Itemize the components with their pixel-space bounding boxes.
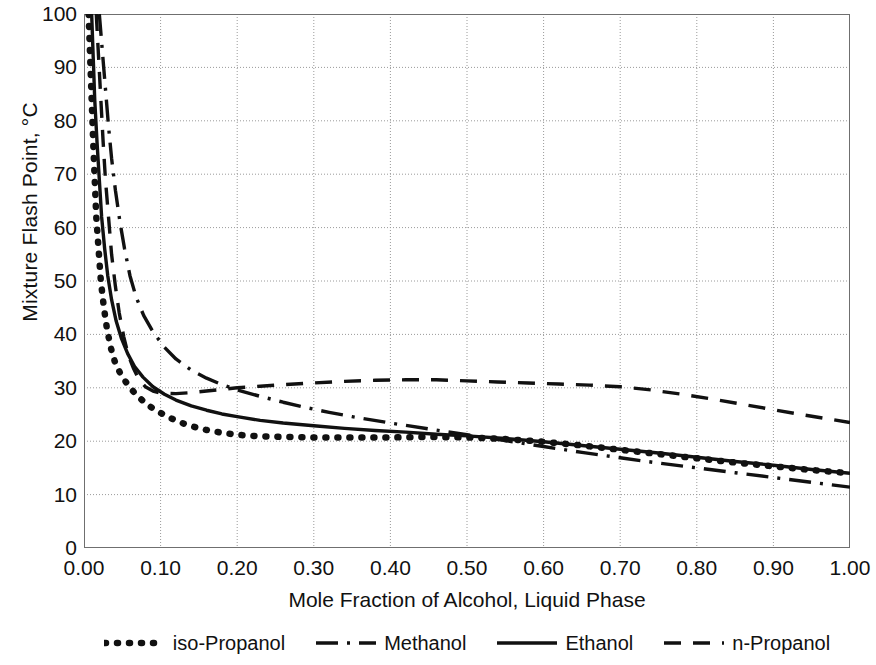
chart-legend: iso-PropanolMethanolEthanoln-Propanol [84,628,850,658]
y-tick-label: 100 [42,2,77,26]
x-tick-label: 0.60 [523,556,564,580]
x-tick-label: 0.50 [447,556,488,580]
legend-key-dotted [104,636,166,650]
y-tick-label: 90 [54,55,77,79]
legend-key-dashdot [315,636,377,650]
y-tick-label: 20 [54,429,77,453]
x-tick-label: 0.00 [64,556,105,580]
legend-key-dashed [663,636,725,650]
y-tick-label: 40 [54,322,77,346]
x-tick-label: 1.00 [830,556,871,580]
y-tick-label: 80 [54,108,77,132]
plot-area: 0102030405060708090100 0.000.100.200.300… [84,14,850,548]
legend-label: iso-Propanol [173,632,285,655]
series-line-methanol [99,14,850,487]
legend-label: Methanol [384,632,466,655]
y-tick-label: 10 [54,482,77,506]
x-tick-label: 0.70 [600,556,641,580]
legend-label: n-Propanol [732,632,830,655]
x-tick-label: 0.10 [140,556,181,580]
x-tick-label: 0.90 [753,556,794,580]
x-tick-label: 0.30 [293,556,334,580]
x-tick-label: 0.40 [370,556,411,580]
legend-item[interactable]: n-Propanol [663,632,830,655]
legend-item[interactable]: iso-Propanol [104,632,285,655]
y-tick-label: 50 [54,269,77,293]
flash-point-chart: Mixture Flash Point, °C 0102030405060708… [0,0,876,665]
y-tick-label: 30 [54,375,77,399]
y-axis-title: Mixture Flash Point, °C [18,42,42,382]
legend-label: Ethanol [565,632,633,655]
x-tick-label: 0.80 [676,556,717,580]
x-axis-title: Mole Fraction of Alcohol, Liquid Phase [84,588,850,612]
y-tick-label: 60 [54,215,77,239]
chart-canvas [84,14,850,548]
grid-lines [84,14,850,548]
legend-key-solid [496,636,558,650]
y-tick-label: 70 [54,162,77,186]
series-line-n-propanol [96,14,850,423]
x-tick-label: 0.20 [217,556,258,580]
legend-item[interactable]: Methanol [315,632,466,655]
legend-item[interactable]: Ethanol [496,632,633,655]
